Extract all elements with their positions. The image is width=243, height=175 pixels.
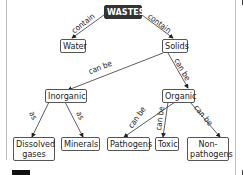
node-water: Water xyxy=(60,39,86,53)
node-water-label: Water xyxy=(63,41,87,51)
node-non-pathogens-line2: pathogens xyxy=(190,149,226,159)
node-minerals: Minerals xyxy=(61,137,100,151)
node-toxic: Toxic xyxy=(155,137,179,151)
node-solids-label: Solids xyxy=(165,41,189,51)
node-dissolved-gases-line2: gases xyxy=(16,149,52,159)
node-pathogens: Pathogens xyxy=(107,137,150,151)
node-organic: Organic xyxy=(162,89,195,103)
node-non-pathogens-line1: Non- xyxy=(190,139,226,149)
edge-inorganic-dissolved xyxy=(32,102,49,137)
node-inorganic: Inorganic xyxy=(45,89,87,103)
node-wastes: WASTES xyxy=(104,5,142,19)
edge-solids-inorganic xyxy=(68,53,163,90)
node-inorganic-label: Inorganic xyxy=(48,91,86,101)
node-wastes-label: WASTES xyxy=(107,7,145,17)
node-non-pathogens: Non- pathogens xyxy=(187,137,229,161)
node-minerals-label: Minerals xyxy=(64,139,98,149)
node-toxic-label: Toxic xyxy=(158,139,178,149)
node-dissolved-gases: Dissolved gases xyxy=(13,137,55,161)
node-solids: Solids xyxy=(162,39,188,53)
node-pathogens-label: Pathogens xyxy=(110,139,152,149)
node-organic-label: Organic xyxy=(165,91,196,101)
node-dissolved-gases-line1: Dissolved xyxy=(16,139,52,149)
